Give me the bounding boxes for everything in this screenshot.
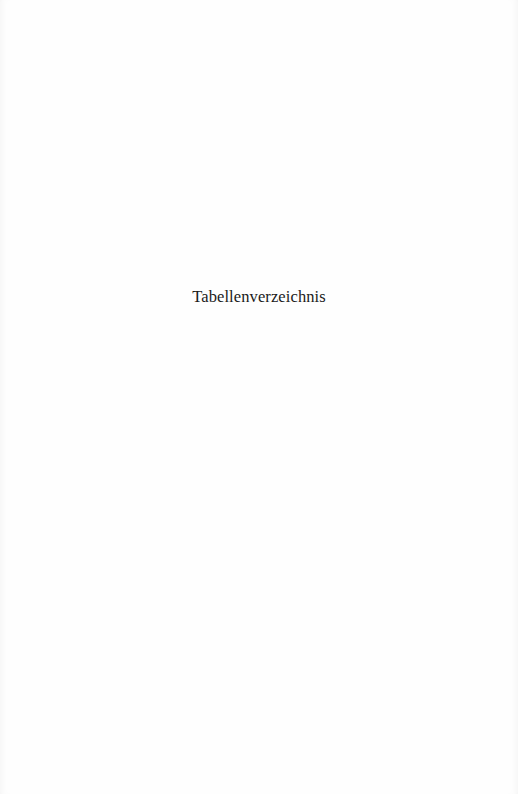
document-page: Tabellenverzeichnis [0, 0, 518, 794]
page-heading: Tabellenverzeichnis [0, 287, 518, 307]
